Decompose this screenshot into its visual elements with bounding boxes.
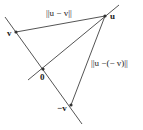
point-zero	[41, 67, 44, 70]
point-u	[103, 14, 106, 17]
label-u: u	[110, 12, 115, 21]
point-neg-v	[69, 103, 72, 106]
label-neg-v: −v	[57, 104, 67, 113]
label-zero: 0	[40, 73, 45, 82]
point-v	[14, 30, 17, 33]
label-v: v	[7, 29, 12, 38]
segment-v-u	[16, 16, 105, 32]
label-norm-u-minus-v: ||u − v||	[46, 9, 72, 18]
label-norm-u-minus-neg-v: ||u −(− v)||	[91, 59, 128, 68]
vector-diagram: ||u − v|| u v 0 ||u −(− v)|| −v	[0, 0, 143, 130]
